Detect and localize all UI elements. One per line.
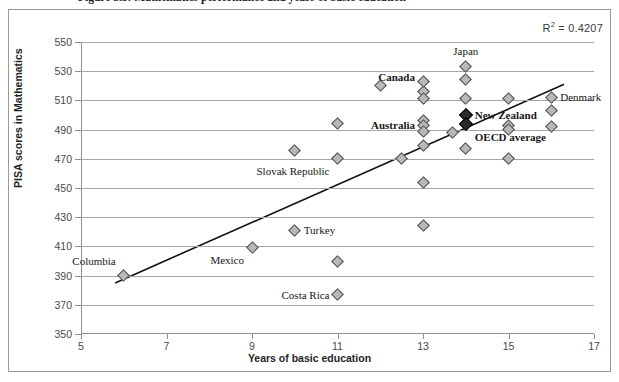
y-axis-title: PISA scores in Mathematics xyxy=(12,48,24,188)
data-point-label: New Zealand xyxy=(475,109,537,121)
data-point-label: Japan xyxy=(453,45,478,57)
x-axis-tick xyxy=(252,334,253,339)
y-axis-tick-label: 390 xyxy=(54,270,72,282)
y-axis-tick-label: 530 xyxy=(54,65,72,77)
plot-area: 3503703904104304504704905105305505791113… xyxy=(81,42,594,334)
x-axis-tick-label: 7 xyxy=(164,340,170,352)
x-axis-tick xyxy=(338,334,339,339)
data-point-label: Costa Rica xyxy=(282,289,330,301)
figure-caption: Figure 3.3: Mathematics performance and … xyxy=(78,0,598,5)
data-point-label: Columbia xyxy=(72,255,115,267)
figure-screenshot: Figure 3.3: Mathematics performance and … xyxy=(0,0,619,382)
y-axis-tick-label: 470 xyxy=(54,153,72,165)
gridline-y xyxy=(81,217,594,218)
gridline-y xyxy=(81,276,594,277)
x-axis-tick xyxy=(423,334,424,339)
x-axis-tick xyxy=(509,334,510,339)
y-axis-tick xyxy=(75,71,81,72)
x-axis-tick-label: 9 xyxy=(249,340,255,352)
y-axis-tick-label: 450 xyxy=(54,182,72,194)
r-squared-symbol: R xyxy=(542,22,550,34)
gridline-y xyxy=(81,100,594,101)
x-axis-tick-label: 5 xyxy=(78,340,84,352)
data-point-label: Mexico xyxy=(210,254,244,266)
y-axis-tick xyxy=(75,305,81,306)
x-axis-title: Years of basic education xyxy=(0,352,619,364)
y-axis-tick xyxy=(75,276,81,277)
r-squared-annotation: R2 = 0.4207 xyxy=(542,20,603,34)
y-axis-tick-label: 550 xyxy=(54,36,72,48)
gridline-y xyxy=(81,246,594,247)
x-axis-tick-label: 13 xyxy=(417,340,429,352)
gridline-y xyxy=(81,42,594,43)
gridline-y xyxy=(81,71,594,72)
y-axis-tick-label: 490 xyxy=(54,124,72,136)
y-axis-tick-label: 430 xyxy=(54,211,72,223)
x-axis-tick-label: 11 xyxy=(332,340,343,352)
x-axis-tick xyxy=(167,334,168,339)
x-axis-tick-label: 17 xyxy=(588,340,600,352)
data-point-label: Canada xyxy=(378,71,415,83)
y-axis-tick-label: 510 xyxy=(54,94,72,106)
data-point-label: Denmark xyxy=(560,91,601,103)
y-axis-tick-label: 370 xyxy=(54,299,72,311)
data-point-label: Australia xyxy=(371,119,415,131)
gridline-y xyxy=(81,305,594,306)
r-squared-value: = 0.4207 xyxy=(555,22,603,34)
y-axis-tick xyxy=(75,130,81,131)
x-axis-tick xyxy=(594,334,595,339)
y-axis-tick xyxy=(75,159,81,160)
y-axis-tick xyxy=(75,42,81,43)
y-axis-tick xyxy=(75,188,81,189)
x-axis-tick xyxy=(81,334,82,339)
gridline-y xyxy=(81,188,594,189)
y-axis-tick xyxy=(75,217,81,218)
y-axis-tick-label: 350 xyxy=(54,328,72,340)
y-axis-tick xyxy=(75,100,81,101)
y-axis-tick-label: 410 xyxy=(54,240,72,252)
data-point-label: Turkey xyxy=(304,224,335,236)
y-axis-tick xyxy=(75,246,81,247)
x-axis-tick-label: 15 xyxy=(503,340,515,352)
data-point-label: Slovak Republic xyxy=(256,165,329,177)
